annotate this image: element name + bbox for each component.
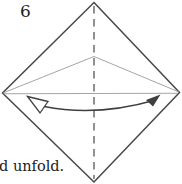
origami-step-figure: 6 d unfold. bbox=[0, 0, 182, 184]
horizontal-crease-line bbox=[4, 93, 178, 94]
origami-step-diagram: 6 d unfold. bbox=[0, 0, 182, 184]
paper-diamond-outline bbox=[3, 3, 180, 183]
caption-text: d unfold. bbox=[0, 158, 64, 174]
step-number-label: 6 bbox=[20, 1, 31, 21]
